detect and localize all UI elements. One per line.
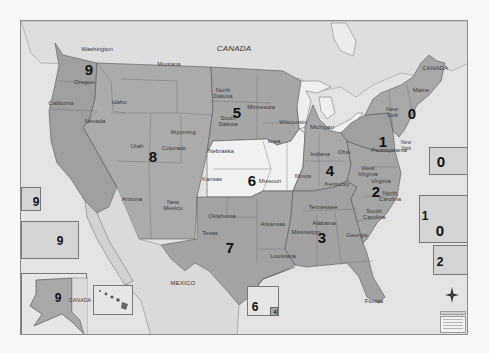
label-illinois: Illinois [295,173,312,179]
compass-rose-icon [444,286,460,304]
zone-number-0: 0 [408,106,416,121]
label-north-carolina: North Carolina [379,190,401,202]
label-mexico: MEXICO [171,280,196,286]
label-kansas: Kansas [202,176,222,182]
zone-number-8: 8 [149,149,157,164]
label-arkansas: Arkansas [260,221,285,227]
zone-number-4: 4 [326,163,334,178]
map-frame: CANADA CANADA MEXICO Washington Oregon C… [20,20,468,335]
label-idaho: Idaho [111,99,126,105]
label-california: California [48,100,73,106]
inset-zone-number: 9 [55,292,62,304]
label-kentucky: Kentucky [325,181,350,187]
inset-kansas-city: 6 4 [247,286,279,316]
label-oregon: Oregon [74,79,94,85]
inset-alaska: 9 CANADA [21,273,87,335]
label-south-carolina: South Carolina [363,208,385,220]
label-wisconsin: Wisconsin [279,119,306,125]
inset-zone-number: 2 [437,256,444,268]
label-new-york-city: New York [401,139,411,151]
label-north-dakota: North Dakota [213,87,232,99]
legend-title-bar [440,311,466,315]
inset-zone-number: 9 [57,235,64,247]
label-washington: Washington [81,46,112,52]
zone-number-2: 2 [372,184,380,199]
label-louisiana: Louisiana [270,253,296,259]
label-indiana: Indiana [310,151,330,157]
label-utah: Utah [131,143,144,149]
label-missouri: Missouri [259,178,281,184]
label-arizona: Arizona [122,196,142,202]
inset-zone-number: 6 [252,301,259,313]
label-texas: Texas [202,230,218,236]
inset-zone-number: 0 [436,223,444,238]
zone-number-3: 3 [318,230,326,245]
label-maine: Maine [413,87,429,93]
label-alabama: Alabama [312,220,336,226]
inset-dc: 2 [433,245,468,275]
zone-number-7: 7 [226,240,234,255]
label-georgia: Georgia [346,232,367,238]
inset-zone-4-box: 4 [270,307,278,316]
label-mississippi: Mississippi [291,229,320,235]
label-new-york: New York [386,106,398,118]
label-nevada: Nevada [85,118,106,124]
label-colorado: Colorado [162,145,186,151]
label-michigan: Michigan [310,124,334,130]
inset-nyc: 1 0 [419,195,468,243]
label-west-virginia: West Virginia [358,165,378,177]
label-wyoming-2: Wyoming [171,129,196,135]
zone-number-6: 6 [248,173,256,188]
inset-zone-number: 9 [33,196,40,208]
inset-socal: 9 [21,187,41,211]
label-nebraska: Nebraska [208,148,234,154]
label-tennessee: Tennessee [308,204,337,210]
inset-zone-number: 0 [437,154,445,169]
label-iowa: Iowa [268,138,281,144]
label-canada-ne: CANADA [422,65,448,71]
hawaii-islands [94,286,134,316]
label-new-mexico: New Mexico [163,199,182,211]
zone-number-9: 9 [85,62,93,77]
zone-number-1: 1 [379,134,387,149]
inset-la: 9 [21,221,79,259]
inset-boston: 0 [429,147,468,175]
label-oklahoma: Oklahoma [208,213,235,219]
map-legend [440,316,466,333]
label-minnesota: Minnesota [247,104,275,110]
inset-hawaii [93,285,133,315]
inset-zone-number-secondary: 1 [422,210,429,222]
label-florida: Florida [365,298,383,304]
label-canada-alaska: CANADA [69,297,91,303]
zone-number-5: 5 [233,105,241,120]
label-montana: Montana [157,61,180,67]
label-ohio: Ohio [338,149,351,155]
label-canada: CANADA [217,44,252,53]
